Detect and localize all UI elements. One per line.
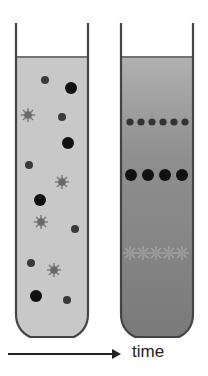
small-particle xyxy=(27,259,35,267)
tube-before xyxy=(16,23,88,337)
liquid-before xyxy=(16,58,88,337)
star-particle xyxy=(47,263,61,277)
small-particle xyxy=(71,225,79,233)
small-particle xyxy=(41,76,49,84)
star-particle xyxy=(21,108,35,122)
large-particle xyxy=(62,137,74,149)
star-particle xyxy=(55,175,69,189)
time-arrow xyxy=(8,349,121,359)
small-particle xyxy=(63,296,71,304)
liquid-after xyxy=(121,58,193,337)
star-particle xyxy=(34,215,48,229)
small-particle xyxy=(25,161,33,169)
large-particle xyxy=(30,290,42,302)
small-particle xyxy=(58,113,66,121)
centrifugation-diagram xyxy=(0,0,208,376)
tube-after xyxy=(121,23,193,337)
large-particle xyxy=(34,194,46,206)
large-particle xyxy=(65,82,77,94)
time-label: time xyxy=(132,342,164,362)
arrowhead-icon xyxy=(112,349,121,359)
